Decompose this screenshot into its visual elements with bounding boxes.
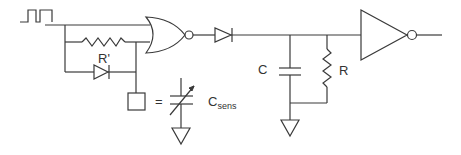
feedback-resistor bbox=[65, 38, 150, 46]
capacitor-icon bbox=[279, 35, 301, 120]
series-diode-icon bbox=[215, 28, 232, 42]
c-label: C bbox=[258, 62, 267, 77]
feedback-diode-icon bbox=[65, 65, 136, 79]
resistor-icon bbox=[290, 35, 331, 103]
r-prime-label: R' bbox=[98, 51, 110, 66]
csens-label: Csens bbox=[208, 94, 237, 111]
rc-ground-icon bbox=[281, 120, 299, 136]
ground-icon bbox=[172, 128, 190, 144]
circuit-diagram: R' = Csens bbox=[0, 0, 461, 155]
inverter-icon bbox=[361, 10, 417, 60]
nor-gate-icon bbox=[146, 17, 193, 53]
r-label: R bbox=[339, 63, 348, 78]
variable-capacitor-icon bbox=[170, 78, 194, 128]
sensor-terminal-box bbox=[128, 93, 145, 110]
equals-sign: = bbox=[155, 94, 163, 109]
square-wave-icon bbox=[20, 10, 52, 22]
